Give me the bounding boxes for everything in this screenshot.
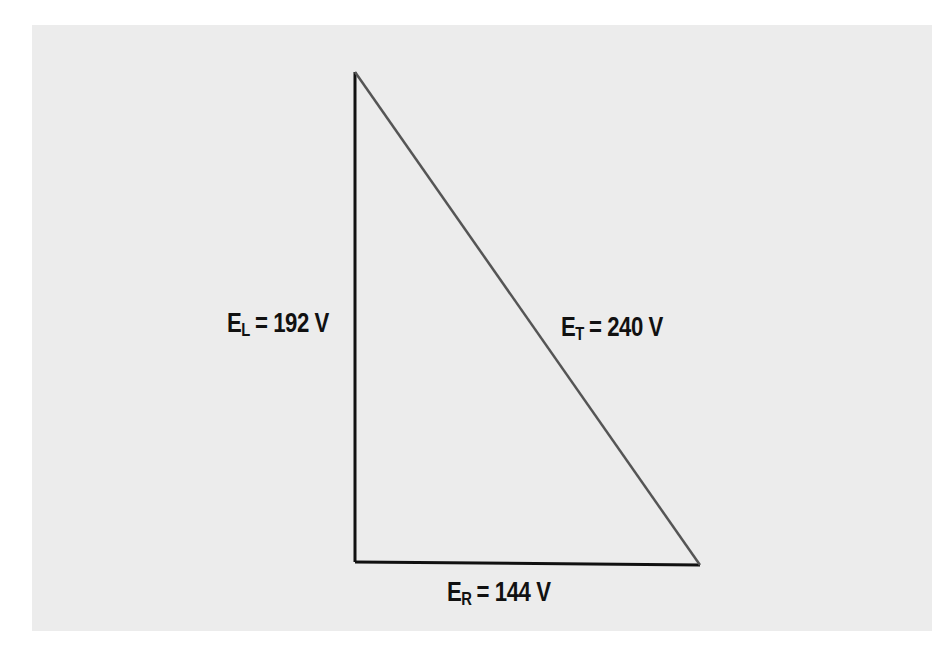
resistive-voltage-label: ER= 144 V (447, 577, 551, 608)
inductive-voltage-label: EL= 192 V (227, 308, 329, 339)
label-subscript: L (241, 320, 250, 340)
resistive-voltage-side (355, 562, 700, 565)
label-value: = 192 V (255, 308, 329, 338)
label-subscript: R (461, 589, 471, 609)
label-symbol: E (447, 577, 461, 607)
voltage-triangle (0, 0, 950, 647)
label-subscript: T (575, 324, 584, 344)
label-symbol: E (227, 308, 241, 338)
label-value: = 144 V (477, 577, 551, 607)
total-voltage-label: ET= 240 V (561, 312, 663, 343)
label-value: = 240 V (589, 312, 663, 342)
label-symbol: E (561, 312, 575, 342)
